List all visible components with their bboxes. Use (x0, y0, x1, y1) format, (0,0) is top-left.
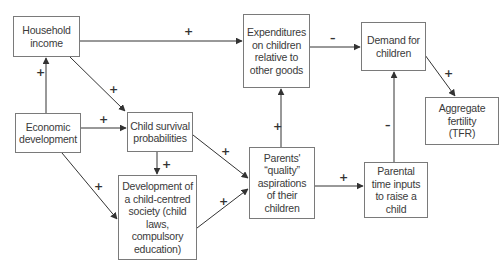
arrow-economic-development-to-child-centred-society (62, 153, 117, 219)
node-label: Demand for children (367, 34, 420, 59)
plus-sign: + (339, 172, 348, 183)
node-label: Economic development (19, 121, 77, 146)
node-parental-time-inputs: Parental time inputs to raise a child (364, 162, 428, 218)
plus-sign: + (184, 26, 193, 37)
node-label: Development of a child-centred society (… (122, 180, 193, 255)
plus-sign: + (219, 196, 228, 207)
node-expenditures-on-children: Expenditures on children relative to oth… (243, 14, 310, 88)
minus-sign: – (330, 33, 336, 44)
node-child-survival-probabilities: Child survival probabilities (127, 112, 193, 152)
plus-sign: + (221, 146, 230, 157)
plus-sign: + (162, 159, 171, 170)
node-label: Child survival probabilities (130, 120, 190, 145)
node-label: Parental time inputs to raise a child (372, 165, 421, 215)
plus-sign: + (99, 114, 108, 125)
plus-sign: + (109, 84, 118, 95)
node-demand-for-children: Demand for children (361, 22, 426, 71)
fertility-determinants-diagram: Household income Economic development Ch… (0, 0, 502, 272)
node-child-centred-society: Development of a child-centred society (… (118, 175, 197, 260)
plus-sign: + (444, 68, 453, 79)
plus-sign: + (273, 121, 282, 132)
node-label: Expenditures on children relative to oth… (247, 26, 306, 76)
node-aggregate-fertility: Aggregate fertility (TFR) (425, 97, 499, 145)
node-label: Aggregate fertility (TFR) (439, 102, 486, 140)
node-quality-aspirations: Parents' “quality” aspirations of their … (249, 147, 315, 219)
node-household-income: Household income (13, 16, 80, 57)
node-label: Household income (22, 24, 70, 49)
plus-sign: + (36, 67, 45, 78)
minus-sign: – (385, 120, 391, 131)
node-economic-development: Economic development (15, 113, 81, 153)
plus-sign: + (94, 181, 103, 192)
node-label: Parents' “quality” aspirations of their … (258, 152, 307, 215)
